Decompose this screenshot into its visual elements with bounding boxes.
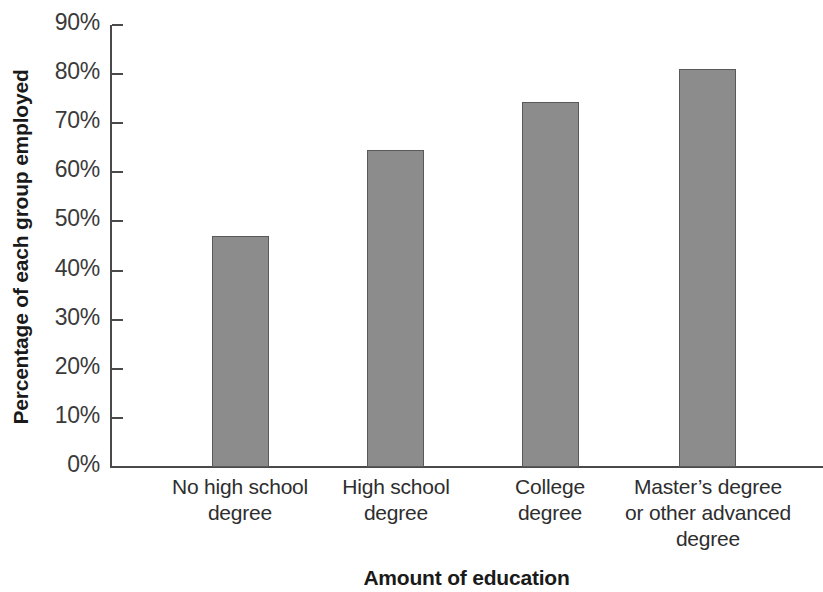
x-category-label-4: Master’s degreeor other advanceddegree [610, 474, 806, 552]
plot-area: No high schooldegreeHigh schooldegreeCol… [0, 0, 823, 592]
x-category-label-line: degree [308, 500, 484, 526]
y-tick-mark-20 [112, 368, 123, 370]
y-tick-mark-10 [112, 417, 123, 419]
y-tick-mark-30 [112, 319, 123, 321]
x-category-label-line: degree [480, 500, 620, 526]
x-category-label-line: College [480, 474, 620, 500]
bar-4 [679, 69, 736, 467]
bar-2 [367, 150, 424, 467]
x-category-label-3: Collegedegree [480, 474, 620, 526]
y-tick-mark-90 [112, 24, 123, 26]
x-category-label-line: degree [610, 526, 806, 552]
bar-chart-figure: Percentage of each group employed 0%10%2… [0, 0, 823, 592]
y-tick-mark-60 [112, 171, 123, 173]
x-axis-title: Amount of education [110, 566, 823, 590]
bar-3 [522, 102, 579, 467]
y-tick-mark-40 [112, 270, 123, 272]
x-category-label-2: High schooldegree [308, 474, 484, 526]
y-tick-mark-50 [112, 220, 123, 222]
x-category-label-line: or other advanced [610, 500, 806, 526]
y-tick-mark-70 [112, 122, 123, 124]
x-category-label-line: Master’s degree [610, 474, 806, 500]
x-category-label-line: High school [308, 474, 484, 500]
y-tick-mark-80 [112, 73, 123, 75]
bar-1 [212, 236, 269, 467]
